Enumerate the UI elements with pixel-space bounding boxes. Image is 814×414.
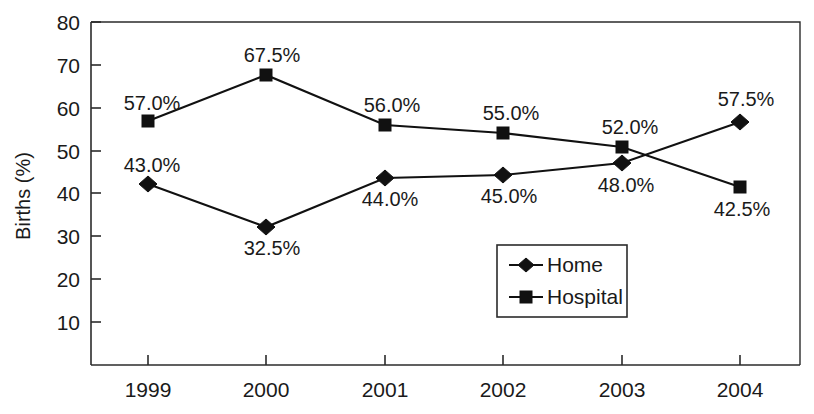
data-label-hospital-2004: 42.5% <box>714 198 771 220</box>
y-tick-label-60: 60 <box>57 97 80 120</box>
data-label-hospital-1999: 57.0% <box>124 92 181 114</box>
square-icon <box>520 291 532 303</box>
data-label-hospital-2002: 55.0% <box>483 102 540 124</box>
data-label-home-2000: 32.5% <box>244 237 301 259</box>
marker-hospital-2004 <box>734 181 746 193</box>
marker-hospital-2002 <box>497 127 509 139</box>
data-label-hospital-2001: 56.0% <box>364 94 421 116</box>
line-chart-births-by-place: 80 70 60 50 40 30 20 10 Births (%) 1999 … <box>0 0 814 414</box>
y-tick-label-80: 80 <box>57 11 80 34</box>
chart-legend[interactable]: Home Hospital <box>497 245 627 317</box>
x-tick-label-2004: 2004 <box>717 378 764 401</box>
x-tick-label-2000: 2000 <box>243 378 290 401</box>
marker-hospital-2000 <box>260 69 272 81</box>
chart-canvas: 80 70 60 50 40 30 20 10 Births (%) 1999 … <box>0 0 814 414</box>
y-tick-label-30: 30 <box>57 225 80 248</box>
x-tick-label-2001: 2001 <box>362 378 409 401</box>
data-label-hospital-2000: 67.5% <box>244 44 301 66</box>
data-label-home-2002: 45.0% <box>481 185 538 207</box>
data-label-home-2001: 44.0% <box>362 188 419 210</box>
data-label-home-2004: 57.5% <box>718 88 775 110</box>
y-tick-label-40: 40 <box>57 182 80 205</box>
x-tick-label-1999: 1999 <box>125 378 172 401</box>
marker-hospital-2003 <box>616 141 628 153</box>
legend-label-hospital: Hospital <box>547 285 623 308</box>
y-tick-label-50: 50 <box>57 140 80 163</box>
data-label-hospital-2003: 52.0% <box>602 116 659 138</box>
data-label-home-1999: 43.0% <box>124 154 181 176</box>
data-label-home-2003: 48.0% <box>598 174 655 196</box>
x-tick-label-2003: 2003 <box>599 378 646 401</box>
y-tick-label-10: 10 <box>57 311 80 334</box>
y-tick-label-70: 70 <box>57 54 80 77</box>
marker-hospital-1999 <box>142 115 154 127</box>
y-axis-title: Births (%) <box>12 152 34 240</box>
x-tick-label-2002: 2002 <box>480 378 527 401</box>
marker-hospital-2001 <box>379 119 391 131</box>
legend-label-home: Home <box>547 253 603 276</box>
y-tick-label-20: 20 <box>57 268 80 291</box>
